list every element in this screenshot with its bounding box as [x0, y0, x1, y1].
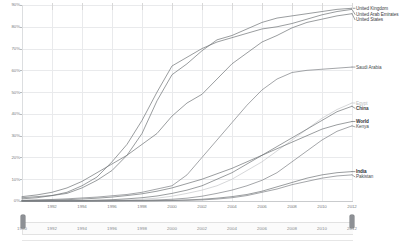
- slider-tickmark: [172, 3, 173, 10]
- series-label-saudi-arabia[interactable]: Saudi Arabia: [356, 65, 381, 70]
- series-line: [22, 126, 352, 201]
- y-axis-tick-label: 0%: [2, 198, 20, 203]
- series-label-egypt[interactable]: Egypt: [356, 101, 368, 106]
- x-axis-tick-label: 2012: [340, 204, 364, 210]
- slider-tick-label: 2008: [280, 226, 304, 232]
- y-axis-tick-label: 30%: [2, 133, 20, 138]
- series-lines: [22, 5, 352, 201]
- x-axis-tick-label: 1994: [70, 204, 94, 210]
- slider-handle-left[interactable]: [21, 215, 25, 228]
- slider-tick-label: 2002: [190, 226, 214, 232]
- x-axis-tick-label: 2004: [220, 204, 244, 210]
- y-axis-tick-label: 60%: [2, 68, 20, 73]
- x-axis-tick-label: 2002: [190, 204, 214, 210]
- slider-tick-label: 1992: [40, 226, 64, 232]
- x-axis-tick-label: 1992: [40, 204, 64, 210]
- x-axis-tick-label: 2006: [250, 204, 274, 210]
- slider-tickmark: [142, 3, 143, 10]
- y-axis: 90%80%70%60%50%40%30%20%10%0%: [0, 0, 20, 247]
- x-axis-tick-label: 2000: [160, 204, 184, 210]
- slider-tick-label: 1998: [130, 226, 154, 232]
- x-axis-tick-label: 1996: [100, 204, 124, 210]
- slider-baseline: [22, 240, 353, 241]
- series-line: [22, 9, 352, 198]
- series-line: [22, 175, 352, 201]
- slider-tickmark: [52, 3, 53, 10]
- series-label-world[interactable]: World: [356, 119, 369, 124]
- series-line: [22, 106, 352, 201]
- slider-tickmark: [232, 3, 233, 10]
- series-label-india[interactable]: India: [356, 169, 366, 174]
- series-line: [22, 67, 352, 200]
- line-chart-widget: 90%80%70%60%50%40%30%20%10%0% 1992199419…: [0, 0, 420, 247]
- series-label-china[interactable]: China: [356, 106, 369, 111]
- slider-tick-label: 2010: [310, 226, 334, 232]
- y-axis-tick-label: 90%: [2, 2, 20, 7]
- slider-tickmark: [82, 3, 83, 10]
- y-axis-tick-label: 40%: [2, 111, 20, 116]
- series-label-united-arab-emirates[interactable]: United Arab Emirates: [356, 12, 398, 17]
- slider-tickmark: [262, 3, 263, 10]
- slider-tick-label: 2004: [220, 226, 244, 232]
- series-label-pakistan[interactable]: Pakistan: [356, 174, 373, 179]
- slider-tickmark: [112, 3, 113, 10]
- series-line: [22, 14, 352, 197]
- slider-tick-label: 2000: [160, 226, 184, 232]
- slider-tickmark: [352, 3, 353, 10]
- y-axis-tick-label: 70%: [2, 46, 20, 51]
- x-axis-tick-label: 2008: [280, 204, 304, 210]
- x-axis-tick-label: 2010: [310, 204, 334, 210]
- slider-tick-label: 2006: [250, 226, 274, 232]
- series-label-united-states[interactable]: United States: [356, 17, 383, 22]
- y-axis-tick-label: 50%: [2, 90, 20, 95]
- slider-tickmark: [292, 3, 293, 10]
- series-label-united-kingdom[interactable]: United Kingdom: [356, 6, 388, 11]
- slider-tickmark: [202, 3, 203, 10]
- x-axis-tick-label: 1998: [130, 204, 154, 210]
- slider-tick-label: 1994: [70, 226, 94, 232]
- slider-tick-label: 1996: [100, 226, 124, 232]
- slider-handle-right[interactable]: [350, 215, 354, 228]
- y-axis-tick-label: 20%: [2, 155, 20, 160]
- series-line: [22, 122, 352, 201]
- series-label-kenya[interactable]: Kenya: [356, 124, 369, 129]
- y-axis-tick-label: 80%: [2, 24, 20, 29]
- y-axis-tick-label: 10%: [2, 177, 20, 182]
- slider-tickmark: [322, 3, 323, 10]
